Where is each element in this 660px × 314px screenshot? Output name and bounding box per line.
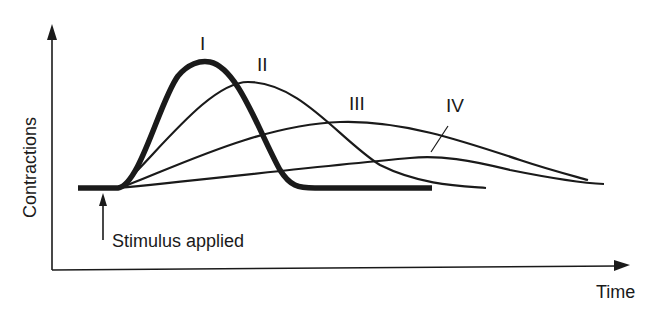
x-axis-arrow-icon	[614, 260, 630, 271]
y-axis-arrow-icon	[47, 24, 57, 40]
up-arrow-icon	[99, 193, 107, 206]
curve-label-iii: III	[349, 93, 365, 115]
curve-label-i: I	[200, 33, 205, 55]
stimulus-arrow	[99, 193, 107, 240]
x-axis-label: Time	[596, 282, 635, 303]
curve-label-iv: IV	[446, 95, 464, 117]
curve-ii	[120, 82, 486, 188]
curve-iv-pointer	[431, 126, 448, 152]
curve-label-ii: II	[257, 54, 268, 76]
stimulus-label: Stimulus applied	[112, 231, 244, 252]
x-axis	[52, 260, 630, 271]
curve-iii	[120, 122, 588, 188]
y-axis-label: Contractions	[20, 117, 41, 218]
chart-canvas	[0, 0, 660, 314]
y-axis	[47, 24, 57, 270]
curve-iv	[118, 157, 604, 188]
curve-i	[78, 62, 432, 188]
